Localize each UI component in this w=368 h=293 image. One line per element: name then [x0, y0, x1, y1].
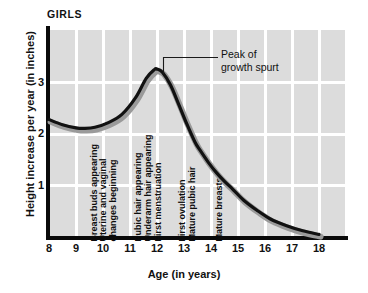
growth-curve-line [49, 69, 319, 235]
peak-leader-line [164, 58, 219, 75]
growth-chart-figure: GIRLS Height increase per year (in inche… [0, 0, 368, 293]
peak-annotation-label: Peak of growth spurt [221, 48, 279, 74]
growth-curve-shadow [51, 71, 321, 237]
growth-curve-svg [0, 0, 368, 293]
